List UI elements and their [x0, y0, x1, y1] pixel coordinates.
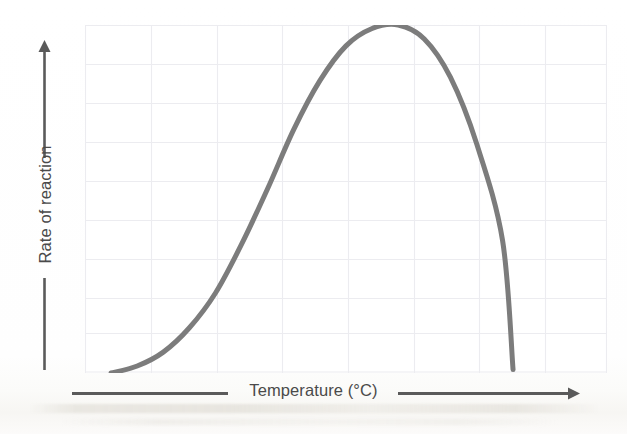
- y-axis-label: Rate of reaction: [36, 80, 55, 330]
- y-axis: Rate of reaction: [18, 30, 72, 380]
- plot-background: [85, 25, 607, 373]
- scan-artifact-band-lower: [58, 419, 558, 425]
- plot-area: [85, 25, 607, 373]
- x-axis-label: Temperature (°C): [0, 381, 627, 400]
- x-axis: Temperature (°C): [0, 378, 627, 410]
- y-axis-arrowhead-icon: [39, 40, 51, 52]
- chart-figure: Temperature (°C) Rate of reaction: [0, 0, 627, 434]
- plot-canvas: [85, 25, 607, 373]
